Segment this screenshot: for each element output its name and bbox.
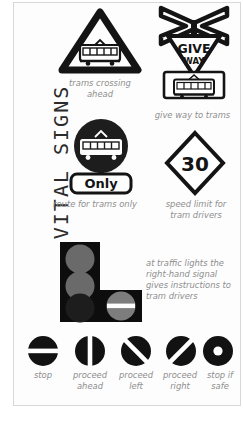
aspect-label-stop: stop — [22, 370, 64, 381]
signal-horizontal-bar-icon — [27, 336, 59, 366]
caption-route-for-trams-only: route for trams only — [30, 199, 160, 210]
aspect-label-proceed-ahead: proceed ahead — [68, 370, 112, 392]
aspect-label-stop-if-safe: stop if safe — [199, 370, 241, 392]
caption-speed-limit: speed limit for tram drivers — [150, 199, 242, 221]
only-plate-icon: Only — [71, 174, 131, 193]
signal-vertical-bar-icon — [75, 335, 105, 367]
signal-slash-bar-icon — [166, 336, 196, 366]
signal-lamp-top — [66, 245, 95, 274]
tram-symbol — [80, 40, 120, 66]
speed-limit-value: 30 — [181, 152, 209, 176]
sign-route-for-trams-only: Only — [58, 118, 146, 194]
tram-plate-icon — [164, 72, 224, 99]
tram-signal-head — [58, 240, 144, 324]
signal-aspects-row — [24, 334, 230, 368]
sign-speed-limit: 30 — [163, 130, 227, 196]
next-page-strip — [0, 413, 243, 441]
crossbuck-giveway-tram-icon: GIVE WAY — [152, 4, 236, 104]
signal-lamp-instruction — [107, 292, 136, 321]
diamond-speed-limit-icon: 30 — [163, 130, 227, 196]
signal-dot-icon — [203, 336, 233, 366]
signal-backslash-bar-icon — [121, 336, 151, 366]
warning-triangle-tram-icon — [58, 8, 142, 74]
give-way-triangle-icon: GIVE WAY — [168, 36, 220, 76]
caption-signal-head: at traffic lights the right-hand signal … — [146, 258, 241, 302]
signal-aspects-icons — [24, 334, 230, 368]
caption-trams-crossing-ahead: trams crossing ahead — [46, 78, 154, 100]
signal-lamp-bottom — [66, 294, 95, 323]
aspect-label-proceed-right: proceed right — [158, 370, 202, 392]
give-way-primary-text: GIVE — [177, 41, 210, 56]
page-root: VITAL SIGNS trams crossing ahead — [0, 0, 243, 441]
aspect-label-proceed-left: proceed left — [114, 370, 158, 392]
tram-signal-head-icon — [58, 240, 144, 324]
only-plate-text: Only — [84, 176, 118, 191]
sign-give-way-to-trams: GIVE WAY — [152, 4, 236, 104]
sign-trams-crossing-ahead — [58, 8, 142, 74]
give-way-secondary-text: WAY — [184, 56, 206, 66]
caption-give-way-to-trams: give way to trams — [142, 110, 243, 121]
circle-tram-only-icon: Only — [58, 118, 146, 194]
